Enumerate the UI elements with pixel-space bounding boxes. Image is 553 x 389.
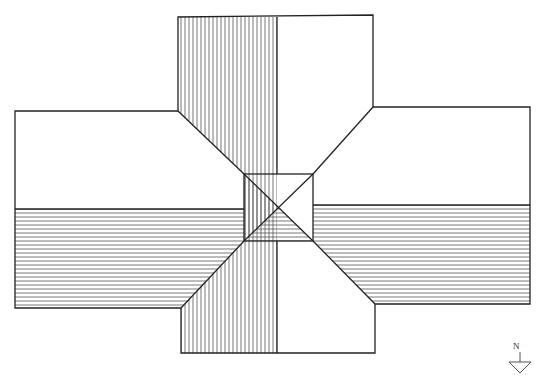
north-label: N <box>513 341 520 351</box>
roof-plan-drawing <box>0 0 553 389</box>
east-wing-south-slope <box>313 205 530 304</box>
hip-ne <box>313 107 373 174</box>
north-arrow-icon <box>509 352 531 373</box>
